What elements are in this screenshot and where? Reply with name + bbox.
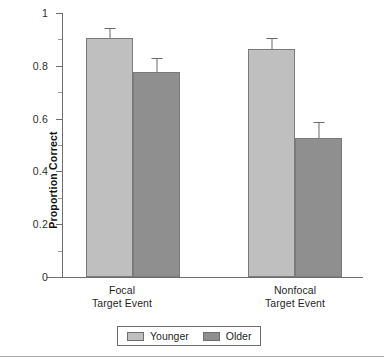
- plot-area: 1 0.8 0.6 0.4 0.2 0: [62, 13, 362, 277]
- legend-label-older: Older: [226, 330, 252, 342]
- bar-nonfocal-younger: [248, 49, 295, 277]
- y-tick-label-1: 1: [42, 7, 48, 19]
- page-bottom-rule: [0, 356, 384, 357]
- y-axis-title: Proportion Correct: [47, 131, 59, 229]
- errorbar-nonfocal-younger: [271, 38, 272, 49]
- y-tick-minor-05: [58, 145, 62, 146]
- legend-label-younger: Younger: [150, 330, 189, 342]
- legend-entry-younger: Younger: [127, 330, 189, 342]
- y-tick-minor-01: [58, 251, 62, 252]
- y-tick-label-02: 0.2: [33, 218, 48, 230]
- y-tick-0: 0: [56, 277, 62, 278]
- y-tick-04: 0.4: [56, 171, 62, 172]
- x-category-nonfocal-line2: Target Event: [235, 297, 355, 310]
- x-category-focal-line1: Focal: [62, 284, 182, 297]
- y-tick-minor-09: [58, 39, 62, 40]
- y-tick-08: 0.8: [56, 66, 62, 67]
- bar-chart-figure: Proportion Correct 1 0.8 0.6 0.4 0.2 0: [0, 0, 384, 360]
- y-tick-1: 1: [56, 13, 62, 14]
- bar-nonfocal-older: [295, 138, 342, 277]
- legend-swatch-younger: [127, 332, 144, 341]
- legend-entry-older: Older: [203, 330, 252, 342]
- y-tick-06: 0.6: [56, 119, 62, 120]
- chart-legend: Younger Older: [117, 326, 261, 346]
- y-tick-label-04: 0.4: [33, 165, 48, 177]
- x-category-label-nonfocal: Nonfocal Target Event: [235, 284, 355, 310]
- errorbar-focal-older: [156, 58, 157, 72]
- errorbar-focal-younger: [109, 28, 110, 38]
- x-category-focal-line2: Target Event: [62, 297, 182, 310]
- x-axis-line: [47, 277, 363, 278]
- legend-swatch-older: [203, 332, 220, 341]
- y-tick-minor-03: [58, 198, 62, 199]
- y-tick-label-08: 0.8: [33, 60, 48, 72]
- x-category-label-focal: Focal Target Event: [62, 284, 182, 310]
- y-tick-label-06: 0.6: [33, 113, 48, 125]
- x-category-nonfocal-line1: Nonfocal: [235, 284, 355, 297]
- y-tick-02: 0.2: [56, 224, 62, 225]
- errorbar-nonfocal-older: [318, 122, 319, 138]
- bar-focal-younger: [86, 38, 133, 277]
- y-tick-label-0: 0: [42, 271, 48, 283]
- y-tick-minor-07: [58, 92, 62, 93]
- bar-focal-older: [133, 72, 180, 277]
